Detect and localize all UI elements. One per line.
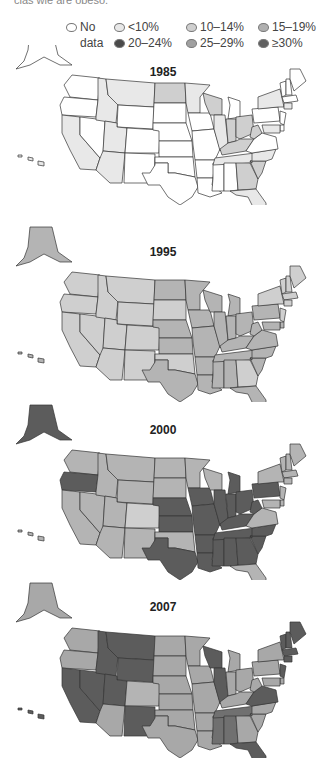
state-ar (195, 357, 215, 375)
state-al (224, 716, 238, 744)
state-de (280, 500, 284, 506)
legend-swatch-15-19 (258, 23, 269, 32)
state-md (262, 322, 280, 330)
state-mi (228, 294, 240, 316)
state-ms (212, 360, 224, 388)
state-nd (154, 83, 186, 103)
state-co (125, 503, 160, 528)
state-pa (252, 304, 280, 320)
state-ny (258, 464, 284, 484)
state-ny (258, 642, 284, 662)
state-wi (203, 93, 222, 115)
state-me (290, 69, 306, 91)
state-nd (154, 458, 186, 478)
state-hi (18, 530, 44, 541)
state-ne (153, 123, 192, 141)
state-ct (284, 103, 292, 109)
state-wi (203, 468, 222, 490)
legend-item-10-14: 10–14% (186, 20, 244, 34)
state-nj (280, 111, 286, 125)
state-ne (153, 676, 192, 694)
state-in (226, 494, 236, 518)
state-ct (284, 300, 292, 306)
state-me (290, 622, 306, 644)
us-map-2000 (0, 400, 326, 580)
state-sd (153, 656, 186, 676)
us-map-2007 (0, 578, 326, 758)
state-ms (212, 163, 224, 191)
state-ak (16, 405, 72, 444)
state-sd (153, 103, 186, 123)
state-nd (154, 280, 186, 300)
us-map-1985 (0, 45, 326, 205)
state-ia (188, 113, 214, 131)
state-co (125, 325, 160, 350)
us-map-1995 (0, 222, 326, 402)
state-wy (117, 480, 154, 504)
state-ak (16, 45, 72, 69)
state-ak (16, 227, 72, 266)
state-ms (212, 716, 224, 744)
state-sd (153, 300, 186, 320)
state-in (226, 119, 236, 143)
state-mi (228, 650, 240, 672)
state-ct (284, 478, 292, 484)
state-ny (258, 89, 284, 109)
state-wa (64, 75, 100, 100)
legend-swatch-lt10 (114, 23, 125, 32)
state-ne (153, 320, 192, 338)
state-wi (203, 290, 222, 312)
state-hi (18, 352, 44, 363)
state-or (60, 472, 98, 492)
state-co (125, 681, 160, 706)
state-in (226, 672, 236, 696)
state-ia (188, 666, 214, 684)
state-ar (195, 160, 215, 178)
legend-swatch-10-14 (186, 23, 197, 32)
state-de (280, 125, 284, 131)
state-sd (153, 478, 186, 498)
legend-label: No (80, 20, 95, 34)
state-ak (16, 583, 72, 622)
state-me (290, 266, 306, 288)
state-ma (282, 292, 298, 300)
state-ny (258, 286, 284, 306)
state-or (60, 294, 98, 314)
state-ia (188, 488, 214, 506)
state-pa (252, 482, 280, 498)
state-ar (195, 713, 215, 731)
state-de (280, 678, 284, 684)
legend-item-lt10: <10% (114, 20, 159, 34)
state-md (262, 678, 280, 686)
state-wa (64, 450, 100, 475)
state-wy (117, 302, 154, 326)
legend-swatch-no-data (66, 23, 77, 32)
state-al (224, 538, 238, 566)
state-hi (18, 155, 44, 166)
state-ar (195, 535, 215, 553)
state-ct (284, 656, 292, 662)
legend-label: <10% (128, 20, 159, 34)
state-me (290, 444, 306, 466)
state-ks (159, 516, 193, 532)
state-ks (159, 338, 193, 354)
state-wi (203, 646, 222, 668)
state-nj (280, 664, 286, 678)
state-mi (228, 97, 240, 119)
state-or (60, 97, 98, 117)
state-ma (282, 648, 298, 656)
state-fl (230, 742, 266, 758)
state-nj (280, 308, 286, 322)
legend-label: 15–19% (272, 20, 316, 34)
state-in (226, 316, 236, 340)
legend-label: 10–14% (200, 20, 244, 34)
state-ia (188, 310, 214, 328)
state-wa (64, 272, 100, 297)
legend-item-15-19: 15–19% (258, 20, 316, 34)
state-mi (228, 472, 240, 494)
state-nd (154, 636, 186, 656)
state-pa (252, 660, 280, 676)
state-ms (212, 538, 224, 566)
state-co (125, 128, 160, 153)
state-wy (117, 658, 154, 682)
